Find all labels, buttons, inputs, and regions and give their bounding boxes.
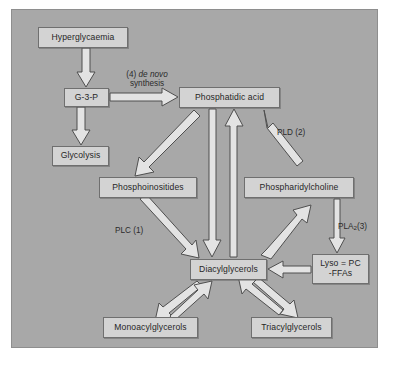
node-phosphatidic-acid: Phosphatidic acid [179,87,280,108]
node-phosphatidic-acid-label: Phosphatidic acid [195,93,264,103]
arrow-g3p-to-phosphatidic-acid [110,88,178,106]
node-phospharidylcholine-label: Phospharidylcholine [260,183,339,193]
edge-label-de-novo-italic: de novo [139,70,168,79]
edge-label-plc: PLC (1) [115,226,143,235]
node-hyperglycaemia: Hyperglycaemia [38,27,128,48]
node-diacylglycerols: Diacylglycerols [190,259,267,280]
arrow-hyperglycaemia-to-g3p [77,48,95,87]
node-hyperglycaemia-label: Hyperglycaemia [51,33,114,43]
node-g3p-label: G-3-P [75,93,98,103]
node-diacylglycerols-label: Diacylglycerols [199,265,258,275]
node-lyso-pc: Lyso = PC -FFAs [312,254,369,284]
arrow-phosphatidylcholine-to-phosphatidic-acid [264,110,303,166]
node-monoacylglycerols: Monoacylglycerols [103,317,198,338]
node-triacylglycerols-label: Triacylglycerols [261,323,322,333]
node-glycolysis: Glycolysis [52,146,109,166]
arrow-diacylglycerols-to-phosphatidic-acid [225,109,243,257]
node-phosphoinositides: Phosphoinositides [99,177,197,198]
arrow-lyso-to-diacylglycerols [268,261,311,278]
arrow-diacylglycerols-to-phosphatidylcholine [261,205,311,259]
node-triacylglycerols: Triacylglycerols [251,317,332,338]
edge-label-pld-text: PLD (2) [277,128,305,137]
edge-label-pla2-prefix: PLA [338,222,353,231]
edge-label-de-novo-second-line: synthesis [130,79,164,88]
arrow-phosphatidic-acid-to-phosphoinositides [135,110,200,176]
node-g3p: G-3-P [64,88,109,107]
edge-label-de-novo-prefix: (4) [126,70,138,79]
arrow-phosphoinositides-to-diacylglycerols [140,194,199,258]
node-phospharidylcholine: Phospharidylcholine [244,177,354,198]
figure-root: Hyperglycaemia G-3-P Glycolysis Phosphat… [0,0,394,365]
arrow-g3p-to-glycolysis [72,107,90,145]
arrow-phosphatidic-acid-to-diacylglycerols [203,109,221,257]
diagram-panel: Hyperglycaemia G-3-P Glycolysis Phosphat… [11,9,378,348]
edge-label-pla2-suffix: (3) [357,222,367,231]
edge-label-de-novo-synthesis: (4) de novo synthesis [110,70,184,89]
node-monoacylglycerols-label: Monoacylglycerols [114,323,186,333]
edge-label-pla2: PLA2(3) [338,222,367,231]
edge-label-plc-text: PLC (1) [115,226,143,235]
node-glycolysis-label: Glycolysis [61,151,101,161]
node-lyso-pc-label-line2: -FFAs [329,269,352,279]
edge-label-pld: PLD (2) [277,128,305,137]
node-phosphoinositides-label: Phosphoinositides [112,183,183,193]
